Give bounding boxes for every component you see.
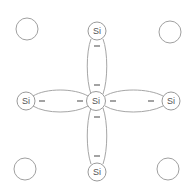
- bond-bottom-left-arc: [87, 108, 91, 164]
- atom-left-label: Si: [22, 96, 30, 106]
- bond-right-bottom-arc: [105, 106, 163, 112]
- atom-center-label: Si: [92, 96, 100, 106]
- silicon-lattice-diagram: Si Si Si Si Si: [0, 0, 192, 190]
- bond-bottom-right-arc: [103, 108, 107, 164]
- empty-site-bottom-right: [157, 158, 179, 180]
- atom-bottom-label: Si: [93, 167, 101, 177]
- bond-top-left-arc: [87, 39, 91, 94]
- bond-top: [87, 39, 107, 94]
- atom-right: Si: [162, 92, 180, 110]
- bond-right: [105, 90, 163, 112]
- atom-center: Si: [87, 92, 106, 111]
- bond-left-bottom-arc: [33, 106, 88, 112]
- bond-bottom: [87, 108, 107, 164]
- empty-site-top-left: [16, 18, 38, 40]
- atom-top: Si: [88, 22, 106, 40]
- bond-right-top-arc: [105, 90, 163, 96]
- empty-site-bottom-left: [14, 158, 36, 180]
- atom-top-label: Si: [93, 26, 101, 36]
- atom-right-label: Si: [167, 96, 175, 106]
- bond-left: [33, 90, 88, 112]
- bond-left-top-arc: [33, 90, 88, 96]
- bond-top-right-arc: [103, 39, 107, 94]
- atom-left: Si: [17, 92, 35, 110]
- empty-site-top-right: [159, 21, 181, 43]
- atom-bottom: Si: [88, 163, 106, 181]
